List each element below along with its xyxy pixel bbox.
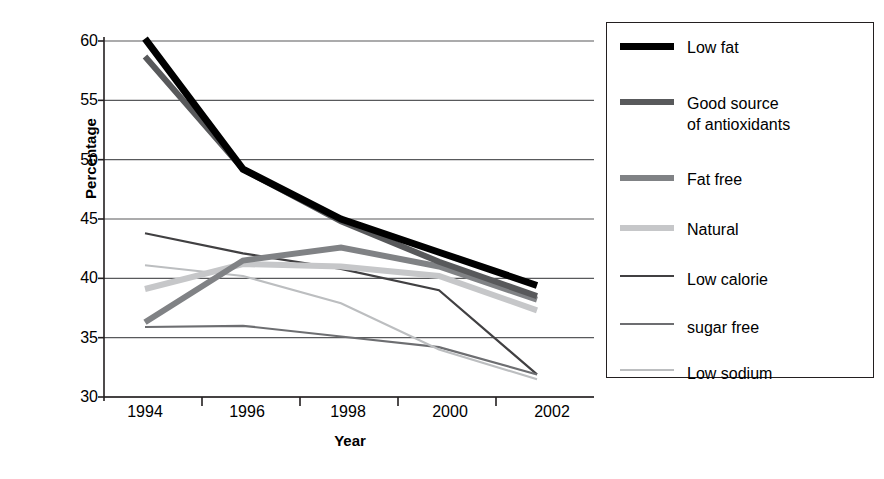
legend-swatch-wrap bbox=[607, 169, 687, 181]
series-line-fat-free bbox=[145, 247, 537, 322]
x-tick-label-1998: 1998 bbox=[297, 404, 399, 420]
legend-line-swatch-icon bbox=[620, 99, 674, 105]
legend-swatch-wrap bbox=[607, 219, 687, 231]
legend-item-label: Low fat bbox=[687, 37, 739, 58]
x-axis-title: Year bbox=[130, 432, 570, 449]
legend: Low fatGood source of antioxidantsFat fr… bbox=[606, 22, 874, 378]
series-lines bbox=[145, 39, 537, 380]
legend-swatch-wrap bbox=[607, 93, 687, 105]
legend-line-swatch-icon bbox=[620, 275, 674, 277]
legend-item-label: sugar free bbox=[687, 317, 759, 338]
legend-line-swatch-icon bbox=[620, 369, 674, 371]
legend-item-good-source-of-antioxidants[interactable]: Good source of antioxidants bbox=[607, 93, 875, 135]
legend-line-swatch-icon bbox=[620, 225, 674, 231]
legend-swatch-wrap bbox=[607, 363, 687, 371]
x-tick-label-2000: 2000 bbox=[399, 404, 501, 420]
legend-item-label: Fat free bbox=[687, 169, 742, 190]
legend-swatch-wrap bbox=[607, 37, 687, 50]
legend-item-fat-free[interactable]: Fat free bbox=[607, 169, 875, 190]
legend-item-label: Natural bbox=[687, 219, 739, 240]
x-tick-label-2002: 2002 bbox=[501, 404, 603, 420]
series-line-good-source-of-antioxidants bbox=[145, 56, 537, 296]
legend-item-low-fat[interactable]: Low fat bbox=[607, 37, 875, 58]
legend-swatch-wrap bbox=[607, 269, 687, 277]
legend-item-label: Good source of antioxidants bbox=[687, 93, 790, 135]
legend-item-sugar-free[interactable]: sugar free bbox=[607, 317, 875, 338]
series-line-sugar-free bbox=[145, 326, 537, 375]
line-chart: Percentage 60 55 50 45 40 35 30 1994 199… bbox=[0, 0, 884, 479]
legend-item-low-calorie[interactable]: Low calorie bbox=[607, 269, 875, 290]
legend-line-swatch-icon bbox=[620, 323, 674, 325]
legend-line-swatch-icon bbox=[620, 43, 674, 50]
legend-line-swatch-icon bbox=[620, 175, 674, 181]
legend-item-label: Low calorie bbox=[687, 269, 768, 290]
legend-item-label: Low sodium bbox=[687, 363, 772, 384]
legend-swatch-wrap bbox=[607, 317, 687, 325]
legend-item-natural[interactable]: Natural bbox=[607, 219, 875, 240]
x-tick-label-1994: 1994 bbox=[94, 404, 196, 420]
x-tick-label-1996: 1996 bbox=[196, 404, 298, 420]
legend-item-low-sodium[interactable]: Low sodium bbox=[607, 363, 875, 384]
